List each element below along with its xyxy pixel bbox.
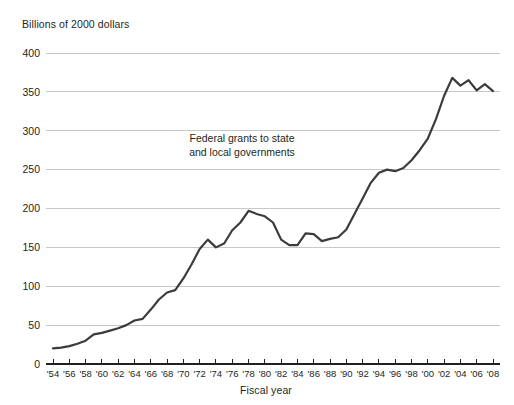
x-axis-tick-label: '64 bbox=[128, 368, 140, 379]
y-axis-tick-label: 300 bbox=[22, 125, 40, 137]
x-axis-tick-labels: '54'56'58'60'62'64'66'68'70'72'74'76'78'… bbox=[47, 368, 499, 379]
x-axis-tick-label: '96 bbox=[389, 368, 401, 379]
y-axis-tick-labels: 050100150200250300350400 bbox=[22, 47, 40, 370]
x-axis-tick-label: '70 bbox=[177, 368, 189, 379]
y-axis-tick-label: 250 bbox=[22, 163, 40, 175]
x-axis-tick-label: '82 bbox=[275, 368, 287, 379]
x-axis-tick-label: '56 bbox=[63, 368, 75, 379]
x-axis-tick-label: '02 bbox=[438, 368, 450, 379]
line-chart: Billions of 2000 dollars Federal grants … bbox=[0, 0, 514, 405]
x-axis-tickmarks bbox=[53, 359, 493, 364]
x-axis-tick-label: '98 bbox=[405, 368, 417, 379]
x-axis-tick-label: '86 bbox=[308, 368, 320, 379]
y-axis-tick-label: 350 bbox=[22, 86, 40, 98]
x-axis-tick-label: '68 bbox=[161, 368, 173, 379]
x-axis-tick-label: '06 bbox=[471, 368, 483, 379]
chart-screenshot: Billions of 2000 dollars Federal grants … bbox=[0, 0, 514, 405]
x-axis-tick-label: '60 bbox=[96, 368, 108, 379]
x-axis-tick-label: '08 bbox=[487, 368, 499, 379]
plot-area: 050100150200250300350400 '54'56'58'60'62… bbox=[0, 0, 514, 405]
x-axis-tick-label: '66 bbox=[145, 368, 157, 379]
x-axis-tick-label: '00 bbox=[422, 368, 434, 379]
gridlines bbox=[46, 53, 500, 325]
x-axis-tick-label: '76 bbox=[226, 368, 238, 379]
x-axis-tick-label: '94 bbox=[373, 368, 385, 379]
x-axis-tick-label: '80 bbox=[259, 368, 271, 379]
y-axis-tick-label: 200 bbox=[22, 202, 40, 214]
y-axis-tick-label: 400 bbox=[22, 47, 40, 59]
x-axis-tick-label: '78 bbox=[242, 368, 254, 379]
x-axis-tick-label: '04 bbox=[454, 368, 466, 379]
y-axis-tick-label: 150 bbox=[22, 241, 40, 253]
x-axis-tick-label: '84 bbox=[291, 368, 303, 379]
x-axis-tick-label: '72 bbox=[193, 368, 205, 379]
x-axis-tick-label: '90 bbox=[340, 368, 352, 379]
y-axis-tick-label: 100 bbox=[22, 280, 40, 292]
x-axis-tick-label: '74 bbox=[210, 368, 222, 379]
y-axis-tick-label: 0 bbox=[34, 358, 40, 370]
x-axis-tick-label: '92 bbox=[356, 368, 368, 379]
y-axis-tick-label: 50 bbox=[28, 319, 40, 331]
x-axis-tick-label: '62 bbox=[112, 368, 124, 379]
x-axis-tick-label: '88 bbox=[324, 368, 336, 379]
data-series-line bbox=[53, 78, 493, 349]
x-axis-title: Fiscal year bbox=[0, 384, 514, 396]
x-axis-tick-label: '58 bbox=[79, 368, 91, 379]
x-axis-tick-label: '54 bbox=[47, 368, 59, 379]
